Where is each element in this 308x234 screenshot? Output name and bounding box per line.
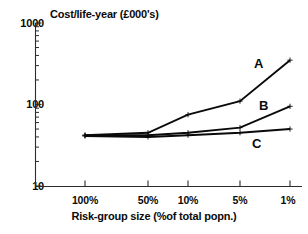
data-point-b-3	[237, 125, 242, 130]
data-point-markers	[82, 58, 292, 140]
chart-container: Cost/life-year (£000's) 1000 100 10 100%…	[0, 0, 308, 234]
series-line-a	[85, 60, 290, 135]
axis-lines	[36, 23, 303, 187]
data-point-c-3	[237, 130, 242, 135]
data-point-b-4	[287, 104, 292, 109]
data-point-c-4	[287, 126, 292, 131]
plot-area	[0, 0, 308, 234]
axis-ticks	[36, 23, 291, 187]
data-series-lines	[85, 60, 290, 137]
